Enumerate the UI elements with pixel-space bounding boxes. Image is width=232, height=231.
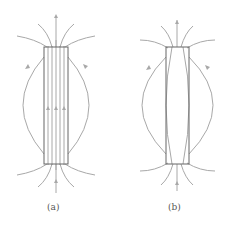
field-lines-figure [0,0,232,231]
panel-b-label: (b) [168,202,181,212]
panel-a-inner-lines [48,40,64,170]
panel-a [17,14,95,193]
panel-b-inner-lines [166,47,189,164]
panel-b-bottom-fan [140,163,215,191]
panel-b-right-loop [189,57,213,154]
panel-a-bottom-fan [17,164,95,193]
panel-a-top-fan [17,18,95,47]
panel-b-left-loop [142,57,166,154]
panel-a-label: (a) [47,202,59,212]
panel-b-top-fan [140,20,215,48]
panel-a-left-loop [23,57,44,154]
panel-a-right-loop [68,57,89,154]
panel-b [140,20,215,191]
